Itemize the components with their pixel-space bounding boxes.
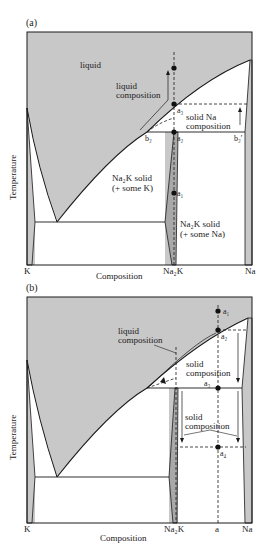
label-solid-composition-lower-2: composition — [185, 421, 230, 431]
point-top — [171, 65, 176, 70]
label-na2k-k-2: (+ some K) — [112, 183, 153, 193]
tick-na2k: Na₂K — [164, 524, 185, 534]
label-a2: a₂ — [177, 134, 184, 143]
y-axis-label: Temperature — [8, 155, 18, 200]
point-a3 — [171, 101, 176, 106]
tick-k: K — [24, 266, 31, 276]
point-a2 — [215, 327, 220, 332]
tick-na: Na — [245, 266, 256, 276]
x-axis-label: Composition — [100, 533, 147, 543]
label-solid-na-2: composition — [186, 121, 231, 131]
label-b2-prime: b₂′ — [234, 134, 243, 143]
panel-a-label: (a) — [26, 17, 37, 29]
label-na2k-k: Na₂K solid — [112, 173, 152, 183]
label-a2: a₂ — [221, 332, 228, 341]
panel-b-label: (b) — [26, 282, 38, 294]
k-na2k-solid-region — [35, 222, 165, 265]
point-a2 — [171, 129, 176, 134]
point-a3 — [215, 385, 220, 390]
panel-b: (b) — [8, 282, 253, 543]
tick-k: K — [24, 524, 31, 534]
label-a1: a₁ — [223, 307, 230, 316]
phase-diagram-figure: (a) — [0, 0, 274, 558]
label-b2: b₂ — [145, 134, 152, 143]
k-na2k-solid-region — [35, 477, 169, 523]
point-a1 — [171, 190, 176, 195]
na2k-na-solid-region — [178, 388, 245, 523]
label-na2k-na-2: (+ some Na) — [180, 229, 225, 239]
label-na2k-na: Na₂K solid — [180, 219, 220, 229]
label-liquid: liquid — [80, 60, 102, 70]
tick-na2k: Na₂K — [163, 266, 184, 276]
label-a3: a₃ — [177, 106, 184, 115]
tick-na: Na — [242, 524, 253, 534]
label-liquid-composition-2: composition — [118, 335, 163, 345]
x-axis-label: Composition — [96, 271, 143, 281]
label-a4: a₄ — [220, 449, 227, 458]
na2k-na-solid-region — [176, 132, 245, 265]
label-solid-composition-upper-2: composition — [186, 368, 231, 378]
label-a3: a₃ — [204, 379, 211, 388]
tick-a: a — [215, 524, 219, 534]
label-a1: a₁ — [177, 189, 184, 198]
y-axis-label: Temperature — [8, 415, 18, 460]
label-liquid-composition-2: composition — [116, 90, 161, 100]
point-a1 — [215, 308, 220, 313]
panel-a: (a) — [8, 17, 256, 281]
